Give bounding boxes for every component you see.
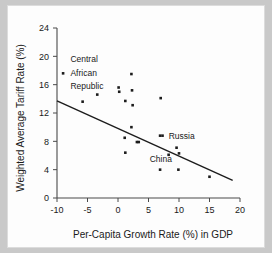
x-tick-label: -5 [83,205,91,215]
y-tick-label: 4 [44,165,49,175]
annotation-label: China [150,154,172,164]
scatter-plot: -10-505101520 04812162024 CentralAfrican… [8,6,264,247]
data-point [131,104,134,107]
y-tick-label: 12 [39,108,49,118]
y-tick-label: 0 [44,193,49,203]
annotation-label: African [70,68,97,78]
fit-line-segment [57,101,233,180]
data-point [159,168,162,171]
data-point [208,175,211,178]
data-point [118,90,121,93]
x-tick-label: -10 [50,205,63,215]
data-point [131,89,134,92]
data-point [124,151,127,154]
data-point [159,97,162,100]
data-point [62,72,65,75]
data-point [130,126,133,129]
y-tick-label: 8 [44,137,49,147]
x-tick-label: 20 [235,205,245,215]
y-tick-label: 16 [39,80,49,90]
x-tick-labels: -10-505101520 [50,205,245,215]
x-tick-label: 0 [115,205,120,215]
data-point [117,86,120,89]
data-point [178,152,181,155]
annotation-label: Central [70,54,98,64]
annotation-label: Russia [169,131,195,141]
y-tick-label: 24 [39,23,49,33]
y-tick-labels: 04812162024 [39,23,49,203]
data-point [81,100,84,103]
data-point [175,146,178,149]
data-point [124,100,127,103]
data-point [96,93,99,96]
data-point [161,134,164,137]
x-axis-title: Per-Capita Growth Rate (%) in GDP [73,229,233,240]
data-point [123,136,126,139]
regression-line [57,101,233,180]
figure-card: -10-505101520 04812162024 CentralAfrican… [8,6,264,247]
data-point [159,134,162,137]
annotation-label: Republic [70,81,104,91]
y-axis-title: Weighted Average Tariff Rate (%) [15,44,26,192]
x-tick-label: 10 [174,205,184,215]
y-tick-label: 20 [39,52,49,62]
x-tick-label: 15 [204,205,214,215]
data-point [177,168,180,171]
data-point [137,141,140,144]
data-point [130,73,133,76]
x-tick-label: 5 [146,205,151,215]
screenshot-root: -10-505101520 04812162024 CentralAfrican… [0,0,272,253]
